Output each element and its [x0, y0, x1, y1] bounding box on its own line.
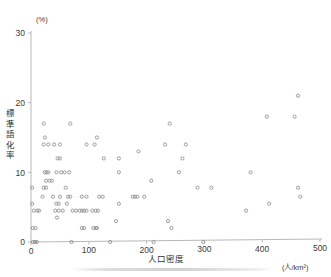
data-point: [91, 209, 94, 212]
data-point: [177, 171, 180, 174]
y-axis-unit-label: (%): [36, 15, 48, 24]
data-point: [55, 171, 58, 174]
axes-group: [28, 31, 322, 245]
data-point: [166, 220, 169, 223]
data-point: [58, 195, 61, 198]
data-point: [80, 195, 83, 198]
y-tick-label: 10: [16, 168, 26, 178]
data-points-group: [31, 94, 302, 244]
scatter-plot-figure: 01020300100200300400500 (%) 人口密度 (人/km²)…: [0, 0, 331, 277]
data-point: [95, 136, 98, 139]
data-point: [53, 143, 56, 146]
x-tick-label: 0: [29, 246, 34, 256]
data-point: [85, 195, 88, 198]
data-point: [268, 202, 271, 205]
data-point: [117, 202, 120, 205]
data-point: [32, 209, 35, 212]
data-point: [63, 171, 66, 174]
page-edge-artifact: [70, 268, 275, 271]
x-axis-title: 人口密度: [148, 254, 184, 264]
data-point: [117, 171, 120, 174]
data-point: [296, 186, 299, 189]
data-point: [69, 122, 72, 125]
data-point: [210, 186, 213, 189]
data-point: [74, 209, 77, 212]
y-axis-title-char: 語: [4, 129, 16, 140]
data-point: [98, 195, 101, 198]
data-point: [299, 195, 302, 198]
x-axis-unit-label: (人/km²): [282, 263, 309, 272]
data-point: [54, 209, 57, 212]
data-point: [150, 179, 153, 182]
data-point: [44, 179, 47, 182]
data-point: [43, 136, 46, 139]
tick-labels-group: 01020300100200300400500: [16, 28, 328, 256]
y-tick-label: 0: [20, 237, 25, 247]
data-point: [101, 195, 104, 198]
data-point: [42, 143, 45, 146]
data-point: [59, 171, 62, 174]
data-point: [102, 157, 105, 160]
x-tick-label: 400: [255, 244, 269, 254]
data-point: [117, 157, 120, 160]
data-point: [93, 143, 96, 146]
data-point: [170, 226, 173, 229]
data-point: [114, 220, 117, 223]
data-point: [65, 202, 68, 205]
data-point: [296, 94, 299, 97]
data-point: [68, 171, 71, 174]
data-point: [265, 115, 268, 118]
data-point: [196, 186, 199, 189]
data-point: [249, 171, 252, 174]
y-tick-label: 30: [16, 28, 26, 38]
plot-canvas: 01020300100200300400500 (%) 人口密度 (人/km²): [0, 0, 331, 277]
data-point: [184, 143, 187, 146]
data-point: [55, 216, 58, 219]
data-point: [143, 195, 146, 198]
y-axis-title-char: 準: [4, 119, 16, 130]
x-tick-label: 100: [82, 245, 96, 255]
data-point: [168, 122, 171, 125]
data-point: [85, 143, 88, 146]
data-point: [293, 115, 296, 118]
data-point: [64, 186, 67, 189]
data-point: [61, 209, 64, 212]
data-point: [71, 209, 74, 212]
data-point: [57, 209, 60, 212]
y-axis-title-char: 率: [4, 150, 16, 161]
data-point: [137, 150, 140, 153]
data-point: [51, 195, 54, 198]
data-point: [244, 209, 247, 212]
data-point: [58, 143, 61, 146]
x-tick-label: 500: [313, 243, 327, 253]
y-axis-title-char: 化: [4, 140, 16, 151]
data-point: [42, 122, 45, 125]
data-point: [164, 143, 167, 146]
y-tick-label: 20: [16, 98, 26, 108]
y-axis-title-char: 標: [4, 108, 16, 119]
y-axis-title: 標準語化率: [4, 108, 16, 161]
data-point: [41, 195, 44, 198]
data-point: [181, 157, 184, 160]
data-point: [47, 143, 50, 146]
x-tick-label: 300: [197, 244, 211, 254]
